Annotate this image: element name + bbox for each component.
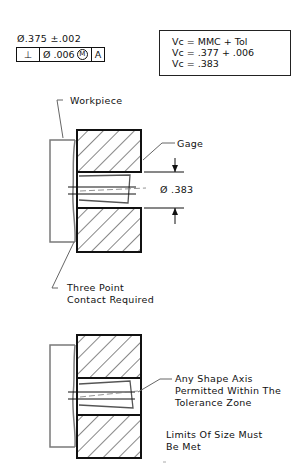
three-point-label-1: Three Point — [67, 283, 124, 293]
gage-bottom-block-2 — [77, 415, 141, 458]
three-point-label-2: Contact Required — [67, 295, 154, 305]
any-shape-label-2: Permitted Within The — [175, 386, 281, 396]
pin-bottom — [79, 381, 133, 408]
gage-drawing — [0, 0, 307, 470]
gage-bottom-block — [77, 208, 141, 252]
gage-label: Gage — [177, 139, 203, 149]
workpiece-label: Workpiece — [70, 96, 122, 106]
gage-top-block-2 — [77, 335, 141, 378]
gage-diameter-label: Ø .383 — [160, 185, 193, 195]
workpiece-outline-bottom — [50, 345, 75, 447]
any-shape-label-1: Any Shape Axis — [175, 374, 253, 384]
workpiece-outline-top — [50, 140, 75, 242]
limits-label-2: Be Met — [166, 442, 201, 452]
gage-top-block — [77, 130, 141, 172]
limits-label-1: Limits Of Size Must — [166, 430, 262, 440]
any-shape-label-3: Tolerance Zone — [175, 398, 252, 408]
pin-top — [79, 175, 130, 203]
